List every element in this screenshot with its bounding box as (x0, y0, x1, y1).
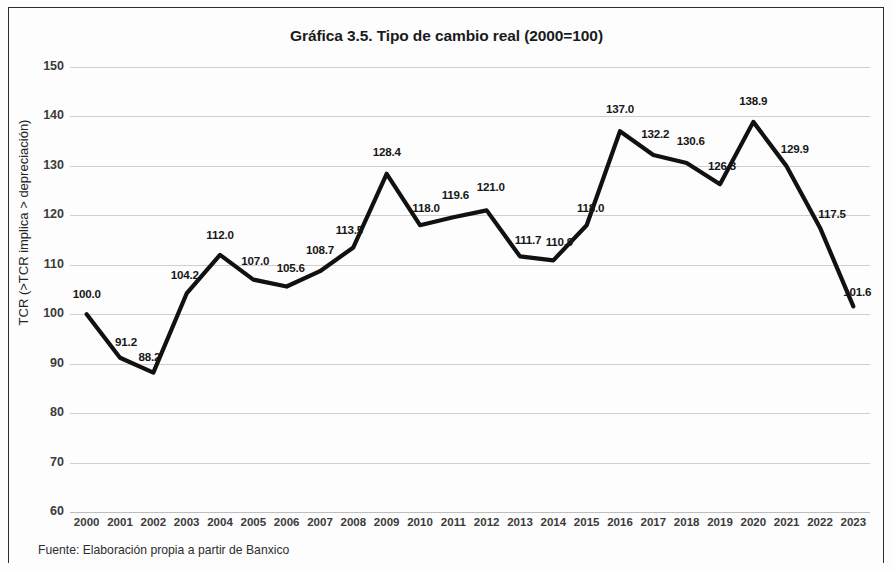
y-tick-80: 80 (4, 405, 64, 419)
data-label-2013: 111.7 (515, 233, 542, 246)
y-axis-title-label: TCR (>TCR implica > depreciación) (17, 120, 32, 326)
source-note: Fuente: Elaboración propia a partir de B… (38, 543, 289, 557)
y-tick-110: 110 (4, 257, 64, 271)
data-label-2023: 101.6 (843, 285, 871, 298)
y-tick-120: 120 (4, 207, 64, 221)
data-label-2018: 130.6 (677, 134, 705, 147)
data-label-2015: 118.0 (577, 201, 604, 214)
data-label-2002: 88.2 (138, 350, 160, 363)
data-label-2000: 100.0 (73, 287, 101, 300)
data-label-2001: 91.2 (115, 335, 137, 348)
data-label-2014: 110.9 (546, 235, 573, 248)
y-tick-130: 130 (4, 158, 64, 172)
y-tick-100: 100 (4, 306, 64, 320)
y-tick-140: 140 (4, 108, 64, 122)
data-label-2010: 118.0 (412, 201, 439, 214)
chart-title: Gráfica 3.5. Tipo de cambio real (2000=1… (0, 27, 893, 45)
y-tick-60: 60 (4, 504, 64, 518)
data-label-2016: 137.0 (606, 102, 634, 115)
y-tick-90: 90 (4, 356, 64, 370)
data-label-2022: 117.5 (818, 207, 845, 220)
figure-page: Gráfica 3.5. Tipo de cambio real (2000=1… (0, 0, 893, 571)
data-label-2011: 119.6 (442, 188, 469, 201)
x-axis-ticks: 2000200120022003200420052006200720082009… (70, 516, 870, 536)
y-tick-150: 150 (4, 59, 64, 73)
plot-area: 60708090100110120130140150 100.091.288.2… (70, 67, 870, 512)
data-label-2005: 107.0 (241, 254, 269, 267)
data-label-2004: 112.0 (206, 228, 233, 241)
data-label-2008: 113.5 (336, 223, 363, 236)
data-label-2019: 126.3 (708, 159, 736, 172)
y-tick-70: 70 (4, 455, 64, 469)
data-label-2012: 121.0 (477, 180, 505, 193)
data-label-2017: 132.2 (641, 127, 669, 140)
data-label-2009: 128.4 (373, 145, 401, 158)
data-label-2003: 104.2 (171, 268, 199, 281)
data-label-2020: 138.9 (739, 94, 767, 107)
data-label-2021: 129.9 (781, 142, 809, 155)
series-line-tcr (70, 67, 870, 512)
data-label-2006: 105.6 (277, 261, 305, 274)
gridline-60 (70, 512, 870, 513)
data-label-2007: 108.7 (306, 243, 334, 256)
x-tick-2023: 2023 (831, 516, 875, 528)
